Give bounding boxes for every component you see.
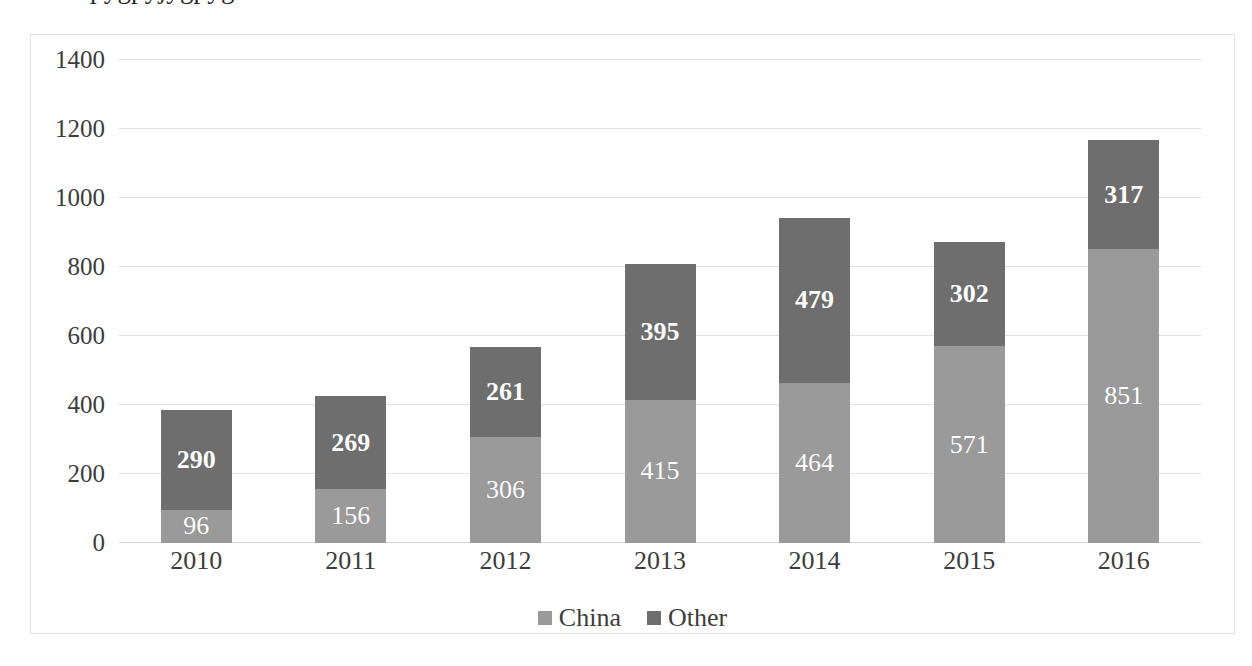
plot-area: 0200400600800100012001400 29096269156261…	[119, 60, 1201, 543]
bar-value-label: 306	[486, 477, 525, 503]
bar-value-label: 261	[486, 379, 525, 405]
y-axis-tick-label: 200	[68, 461, 106, 486]
y-axis-tick-label: 1400	[55, 47, 105, 72]
chart-legend: ChinaOther	[31, 605, 1234, 631]
bar-value-label: 156	[331, 503, 370, 529]
y-axis-tick-label: 600	[68, 323, 106, 348]
bar-value-label: 571	[950, 432, 989, 458]
bar-segment-china-2014[interactable]: 464	[779, 383, 850, 543]
bar-series-group: 2909626915626130639541547946430257131785…	[119, 60, 1201, 543]
bar-value-label: 395	[641, 319, 680, 345]
bar-group-2011[interactable]: 269156	[315, 396, 386, 543]
x-axis-tick-label-2014: 2014	[755, 548, 875, 574]
legend-swatch-other-icon	[647, 611, 661, 625]
legend-label: Other	[668, 605, 727, 631]
x-axis-tick-label-2016: 2016	[1064, 548, 1184, 574]
y-axis-tick-label: 1200	[55, 116, 105, 141]
bar-segment-other-2014[interactable]: 479	[779, 218, 850, 383]
cropped-title-sliver: pygpyjygpyg	[0, 0, 1252, 14]
y-axis-tick-label: 800	[68, 254, 106, 279]
bar-value-label: 290	[177, 447, 216, 473]
x-axis-tick-label-2010: 2010	[136, 548, 256, 574]
legend-swatch-china-icon	[538, 611, 552, 625]
cropped-title-text: pygpyjygpyg	[90, 0, 235, 5]
bar-segment-china-2012[interactable]: 306	[470, 437, 541, 543]
x-axis-labels: 2010201120122013201420152016	[119, 548, 1201, 588]
bar-value-label: 317	[1104, 182, 1143, 208]
bar-group-2014[interactable]: 479464	[779, 218, 850, 543]
bar-segment-china-2011[interactable]: 156	[315, 489, 386, 543]
bar-value-label: 464	[795, 450, 834, 476]
bar-segment-china-2013[interactable]: 415	[625, 400, 696, 543]
bar-group-2013[interactable]: 395415	[625, 264, 696, 543]
y-axis-tick-label: 0	[93, 530, 106, 555]
bar-segment-other-2016[interactable]: 317	[1088, 140, 1159, 249]
chart-container: 0200400600800100012001400 29096269156261…	[30, 34, 1235, 634]
bar-value-label: 302	[950, 281, 989, 307]
x-axis-tick-label-2013: 2013	[600, 548, 720, 574]
bar-group-2015[interactable]: 302571	[934, 242, 1005, 543]
bar-value-label: 96	[183, 513, 209, 539]
bar-group-2016[interactable]: 317851	[1088, 140, 1159, 543]
bar-segment-other-2015[interactable]: 302	[934, 242, 1005, 346]
bar-segment-china-2015[interactable]: 571	[934, 346, 1005, 543]
legend-label: China	[559, 605, 621, 631]
legend-item-china[interactable]: China	[538, 605, 621, 631]
bar-value-label: 851	[1104, 383, 1143, 409]
bar-value-label: 415	[641, 458, 680, 484]
y-axis-tick-label: 1000	[55, 185, 105, 210]
x-axis-tick-label-2015: 2015	[909, 548, 1029, 574]
bar-segment-china-2010[interactable]: 96	[161, 510, 232, 543]
bar-value-label: 479	[795, 287, 834, 313]
bar-segment-other-2012[interactable]: 261	[470, 347, 541, 437]
legend-item-other[interactable]: Other	[647, 605, 727, 631]
bar-group-2012[interactable]: 261306	[470, 347, 541, 543]
bar-segment-china-2016[interactable]: 851	[1088, 249, 1159, 543]
bar-segment-other-2013[interactable]: 395	[625, 264, 696, 400]
x-axis-tick-label-2012: 2012	[445, 548, 565, 574]
bar-value-label: 269	[331, 430, 370, 456]
x-axis-tick-label-2011: 2011	[291, 548, 411, 574]
y-axis-tick-label: 400	[68, 392, 106, 417]
bar-group-2010[interactable]: 29096	[161, 410, 232, 543]
bar-segment-other-2010[interactable]: 290	[161, 410, 232, 510]
bar-segment-other-2011[interactable]: 269	[315, 396, 386, 489]
